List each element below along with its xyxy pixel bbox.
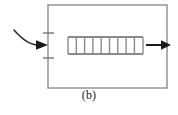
element-rung-group xyxy=(68,37,143,54)
figure-panel-b: (b) xyxy=(0,0,178,115)
outlet-arrow-icon xyxy=(161,40,171,49)
figure-caption: (b) xyxy=(0,88,178,103)
inlet-curve xyxy=(14,30,38,45)
control-volume-boundary xyxy=(48,5,167,88)
inlet-arrow-icon xyxy=(36,40,48,49)
